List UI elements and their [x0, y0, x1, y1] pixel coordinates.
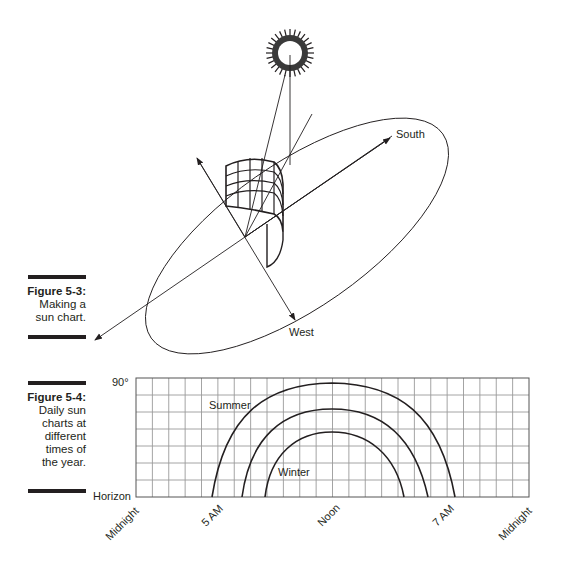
x-label-midnight-end: Midnight — [496, 505, 534, 543]
x-label-5am: 5 AM — [199, 502, 225, 528]
sun-chart: Summer Winter 90° Horizon Midnight 5 AM … — [93, 376, 534, 542]
y-label-top: 90° — [112, 376, 129, 388]
south-direction — [245, 136, 392, 237]
solar-panel-icon — [226, 158, 283, 267]
figure-5-3-diagram: South West Summer Winter 90° Horizon Mid… — [0, 0, 561, 564]
winter-curve — [265, 432, 404, 497]
y-label-bottom: Horizon — [93, 490, 131, 502]
x-label-midnight-start: Midnight — [103, 505, 141, 543]
north-south-line — [95, 237, 245, 340]
summer-label: Summer — [209, 399, 251, 411]
x-label-noon: Noon — [315, 501, 342, 528]
compass-ellipse — [110, 75, 484, 397]
west-label: West — [289, 326, 314, 338]
x-label-7am: 7 AM — [430, 502, 456, 528]
south-label: South — [396, 128, 425, 140]
winter-label: Winter — [278, 466, 310, 478]
